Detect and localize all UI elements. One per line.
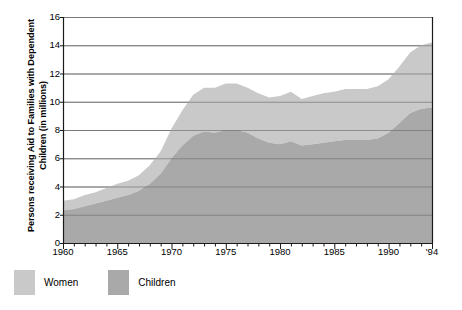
y-tick-label: 16 (40, 12, 60, 22)
x-tick-label: '94 (426, 246, 438, 257)
legend-swatch (108, 270, 129, 295)
y-tick-label: 2 (40, 210, 60, 220)
stacked-area-series (63, 42, 432, 243)
y-tick-label: 6 (40, 153, 60, 163)
x-tick-label: 1965 (107, 246, 128, 257)
legend-swatch (14, 270, 35, 295)
x-tick-label: 1970 (161, 246, 182, 257)
legend-entry: Children (108, 270, 205, 295)
aid-to-families-area-chart: Persons receiving Aid to Families with D… (0, 0, 462, 310)
legend-label: Children (138, 277, 175, 289)
x-tick-label: 1990 (378, 246, 399, 257)
y-tick-label: 10 (40, 97, 60, 107)
x-axis-tick-labels: 1960196519701975198019851990'94 (63, 246, 432, 260)
x-tick-label: 1960 (52, 246, 73, 257)
y-tick-label: 8 (40, 125, 60, 135)
chart-plot-svg (63, 17, 432, 243)
y-tick-label: 12 (40, 69, 60, 79)
legend-entry: Women (14, 270, 108, 295)
plot-area (63, 17, 432, 243)
legend-label: Women (44, 277, 78, 289)
y-tick-label: 4 (40, 182, 60, 192)
chart-legend: WomenChildren (14, 270, 206, 295)
y-axis-tick-labels: 0246810121416 (36, 17, 60, 243)
x-tick-label: 1980 (269, 246, 290, 257)
x-tick-label: 1985 (324, 246, 345, 257)
x-tick-label: 1975 (215, 246, 236, 257)
y-tick-label: 14 (40, 40, 60, 50)
